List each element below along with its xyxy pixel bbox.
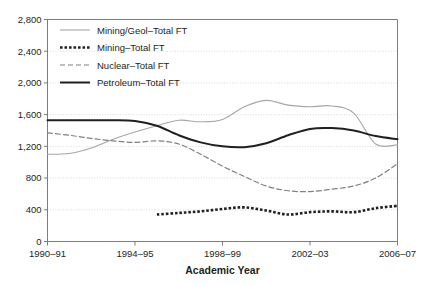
y-tick-label: 0 — [36, 236, 41, 247]
legend-label-2: Nuclear–Total FT — [97, 60, 170, 71]
x-tick-label: 2006–07 — [379, 248, 416, 259]
series-line-2 — [48, 133, 398, 192]
x-tick-label: 1990–91 — [29, 248, 66, 259]
series-line-3 — [48, 120, 398, 147]
x-tick-label: 2002–03 — [292, 248, 329, 259]
y-tick-label: 2,400 — [18, 46, 42, 57]
series-line-1 — [157, 206, 398, 215]
y-tick-label: 2,800 — [18, 14, 42, 25]
x-axis-title: Academic Year — [185, 264, 260, 276]
line-chart: 04008001,2001,6002,0002,4002,8001990–911… — [0, 0, 431, 285]
y-tick-label: 400 — [26, 204, 42, 215]
chart-canvas: 04008001,2001,6002,0002,4002,8001990–911… — [0, 0, 431, 285]
y-tick-label: 1,200 — [18, 141, 42, 152]
y-tick-label: 800 — [26, 172, 42, 183]
legend: Mining/Geol–Total FTMining–Total FTNucle… — [60, 25, 187, 89]
x-tick-label: 1998–99 — [204, 248, 241, 259]
legend-label-0: Mining/Geol–Total FT — [97, 25, 187, 36]
y-tick-label: 2,000 — [18, 77, 42, 88]
series-group — [48, 100, 398, 214]
x-tick-label: 1994–95 — [117, 248, 154, 259]
y-tick-label: 1,600 — [18, 109, 42, 120]
legend-label-3: Petroleum–Total FT — [97, 77, 180, 88]
x-axis: 1990–911994–951998–992002–032006–07 — [29, 242, 416, 259]
legend-label-1: Mining–Total FT — [97, 42, 165, 53]
y-axis: 04008001,2001,6002,0002,4002,800 — [18, 14, 48, 247]
